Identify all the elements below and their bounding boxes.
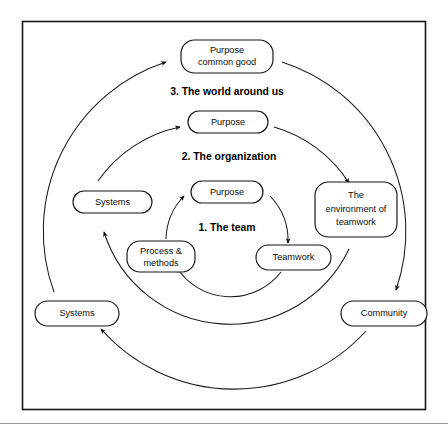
node-process-and-methods-line-2: methods (143, 258, 179, 268)
node-community[interactable]: Community (341, 301, 427, 326)
node-teamwork[interactable]: Teamwork (256, 245, 331, 270)
node-purpose-common-good-line-1: Purpose (210, 45, 244, 55)
node-purpose-team-line-1: Purpose (210, 187, 244, 197)
node-environment-of-teamwork-line-1: The (348, 190, 364, 200)
node-process-and-methods[interactable]: Process & methods (127, 241, 195, 272)
edge-systems-org-to-purpose-org (98, 127, 180, 181)
node-systems-outer[interactable]: Systems (35, 301, 119, 326)
ring-title-1: 1. The team (198, 222, 255, 233)
ring-titles: 3. The world around us 2. The organizati… (170, 86, 284, 233)
ring-title-2: 2. The organization (182, 151, 277, 162)
edge-community-to-systems-outer (101, 329, 366, 389)
edge-teamwork-to-process-methods (177, 268, 281, 297)
edge-purpose-org-to-environment (274, 127, 349, 183)
node-purpose-common-good[interactable]: Purpose common good (181, 40, 273, 73)
node-purpose-team[interactable]: Purpose (191, 181, 263, 203)
node-systems-organization-line-1: Systems (95, 197, 131, 207)
node-community-line-1: Community (361, 308, 408, 318)
node-systems-outer-line-1: Systems (59, 308, 95, 318)
node-environment-of-teamwork-line-2: environment of (326, 204, 387, 214)
node-environment-of-teamwork-line-3: teamwork (336, 217, 376, 227)
node-teamwork-line-1: Teamwork (273, 252, 315, 262)
node-purpose-organization-line-1: Purpose (211, 117, 245, 127)
diagram-canvas: 3. The world around us 2. The organizati… (0, 0, 448, 431)
concentric-cycle-diagram: 3. The world around us 2. The organizati… (0, 0, 448, 431)
edge-process-methods-to-purpose-team (166, 196, 184, 239)
edge-purpose-team-to-teamwork (270, 196, 288, 243)
node-purpose-organization[interactable]: Purpose (188, 111, 268, 133)
node-systems-organization[interactable]: Systems (73, 191, 152, 213)
ring-title-3: 3. The world around us (170, 86, 284, 97)
node-process-and-methods-line-1: Process & (140, 246, 182, 256)
diagram-nodes: Purpose common good Purpose Systems The … (35, 40, 427, 326)
node-purpose-common-good-line-2: common good (198, 57, 256, 67)
node-environment-of-teamwork[interactable]: The environment of teamwork (315, 182, 397, 237)
